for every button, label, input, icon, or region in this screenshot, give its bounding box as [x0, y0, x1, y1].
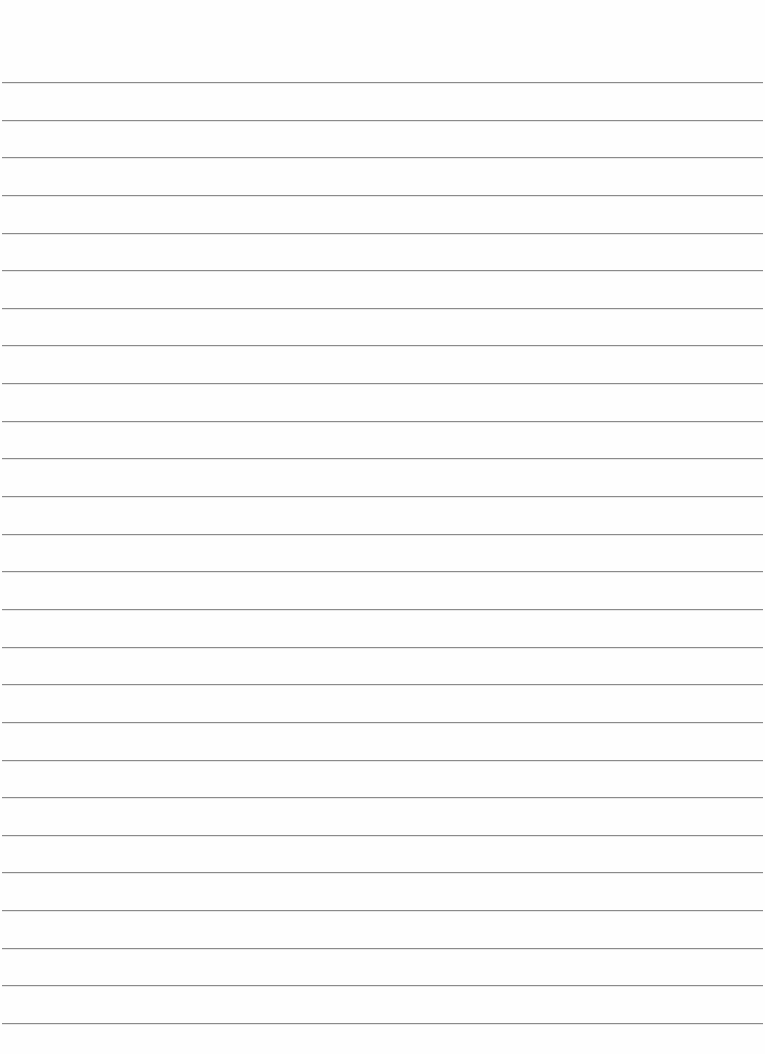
- ruled-line: [2, 985, 763, 986]
- ruled-line: [2, 233, 763, 234]
- ruled-line: [2, 872, 763, 873]
- ruled-line: [2, 270, 763, 271]
- ruled-line: [2, 797, 763, 798]
- ruled-line: [2, 948, 763, 949]
- ruled-line: [2, 609, 763, 610]
- ruled-line: [2, 1023, 763, 1024]
- ruled-line: [2, 684, 763, 685]
- ruled-line: [2, 458, 763, 459]
- ruled-line: [2, 910, 763, 911]
- ruled-line: [2, 82, 763, 83]
- ruled-line: [2, 722, 763, 723]
- ruled-line: [2, 647, 763, 648]
- ruled-line: [2, 308, 763, 309]
- ruled-line: [2, 421, 763, 422]
- ruled-line: [2, 345, 763, 346]
- ruled-line: [2, 157, 763, 158]
- ruled-line: [2, 496, 763, 497]
- ruled-line: [2, 760, 763, 761]
- ruled-line: [2, 835, 763, 836]
- ruled-line: [2, 534, 763, 535]
- ruled-line: [2, 571, 763, 572]
- ruled-line: [2, 195, 763, 196]
- lined-paper-page: [0, 0, 765, 1054]
- ruled-line: [2, 120, 763, 121]
- ruled-line: [2, 383, 763, 384]
